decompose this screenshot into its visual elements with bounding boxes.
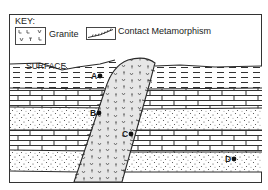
point-b-label: B — [90, 109, 96, 118]
point-b-marker — [97, 111, 102, 116]
surface-label: SURFACE — [26, 62, 66, 71]
point-a-label: A — [91, 72, 97, 81]
key-granite-label: Granite — [49, 30, 79, 39]
point-c-label: C — [122, 130, 128, 139]
geologic-cross-section: KEY: Granite Contact Metamorphism SURFAC… — [0, 0, 268, 190]
key-contact-metamorphism-symbol — [87, 28, 116, 40]
key-granite-symbol — [16, 28, 46, 45]
point-d-marker — [232, 157, 237, 162]
key-title: KEY: — [15, 17, 35, 26]
point-c-marker — [129, 132, 134, 137]
point-d-label: D — [225, 155, 231, 164]
key-contact-metamorphism-label: Contact Metamorphism — [118, 26, 238, 36]
point-a-marker — [98, 74, 103, 79]
